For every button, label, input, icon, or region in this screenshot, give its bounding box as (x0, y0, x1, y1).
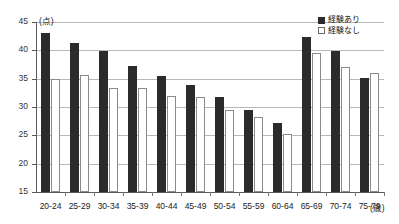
x-axis-tick-label: 70-74 (326, 201, 355, 211)
x-axis-tick (65, 192, 66, 196)
x-axis-tick (210, 192, 211, 196)
bar-experienced (244, 110, 253, 192)
x-axis-tick-label: 60-64 (268, 201, 297, 211)
bar-inexperienced (196, 97, 205, 192)
bar-group (123, 22, 152, 192)
legend-item: 経験なし (318, 26, 360, 37)
legend-label: 経験なし (328, 26, 360, 37)
bar-group (65, 22, 94, 192)
bar-group (94, 22, 123, 192)
bar-experienced (331, 51, 340, 192)
legend-swatch-filled-icon (318, 17, 325, 24)
x-axis-tick (268, 192, 269, 196)
x-axis-tick (384, 192, 385, 196)
bar-experienced (360, 78, 369, 192)
x-axis-tick-label: 20-24 (36, 201, 65, 211)
x-axis-tick (123, 192, 124, 196)
bar-group (355, 22, 384, 192)
bar-inexperienced (341, 67, 350, 192)
bar-experienced (70, 43, 79, 192)
bar-inexperienced (254, 117, 263, 192)
x-axis-tick (326, 192, 327, 196)
bar-inexperienced (312, 53, 321, 192)
bar-inexperienced (167, 96, 176, 192)
bar-group (326, 22, 355, 192)
bar-group (268, 22, 297, 192)
x-axis-tick (181, 192, 182, 196)
plot-area (36, 22, 384, 192)
bar-experienced (99, 51, 108, 192)
bar-group (36, 22, 65, 192)
chart-legend: 経験あり経験なし (318, 15, 360, 36)
x-axis-tick (94, 192, 95, 196)
bar-group (181, 22, 210, 192)
x-axis-tick (297, 192, 298, 196)
x-axis-tick-label: 55-59 (239, 201, 268, 211)
bar-experienced (273, 123, 282, 192)
x-axis-tick-label: 75-79 (355, 201, 384, 211)
y-axis-line (36, 22, 37, 192)
bar-group (239, 22, 268, 192)
x-axis-tick-label: 65-69 (297, 201, 326, 211)
bar-experienced (186, 85, 195, 192)
bar-inexperienced (138, 88, 147, 192)
x-axis-tick-label: 50-54 (210, 201, 239, 211)
x-axis-tick-label: 35-39 (123, 201, 152, 211)
bar-inexperienced (283, 134, 292, 192)
bar-experienced (41, 33, 50, 192)
legend-item: 経験あり (318, 15, 360, 26)
bar-experienced (215, 97, 224, 192)
bar-inexperienced (51, 79, 60, 192)
bar-inexperienced (80, 75, 89, 192)
bar-inexperienced (225, 110, 234, 192)
x-axis-tick-label: 40-44 (152, 201, 181, 211)
x-axis-tick (355, 192, 356, 196)
bar-group (210, 22, 239, 192)
x-axis-tick-label: 45-49 (181, 201, 210, 211)
bar-chart: (点) (歳) 経験あり経験なし 1520253035404520-2425-2… (0, 0, 399, 224)
x-axis-tick-label: 30-34 (94, 201, 123, 211)
legend-swatch-outlined-icon (318, 27, 325, 34)
bar-group (297, 22, 326, 192)
legend-label: 経験あり (328, 15, 360, 26)
bar-inexperienced (370, 73, 379, 192)
x-axis-tick (152, 192, 153, 196)
y-axis-unit-label: (点) (39, 14, 54, 26)
bar-experienced (302, 37, 311, 192)
bar-experienced (128, 66, 137, 192)
x-axis-tick-label: 25-29 (65, 201, 94, 211)
bar-experienced (157, 76, 166, 192)
x-axis-tick (239, 192, 240, 196)
bar-group (152, 22, 181, 192)
bar-inexperienced (109, 88, 118, 192)
